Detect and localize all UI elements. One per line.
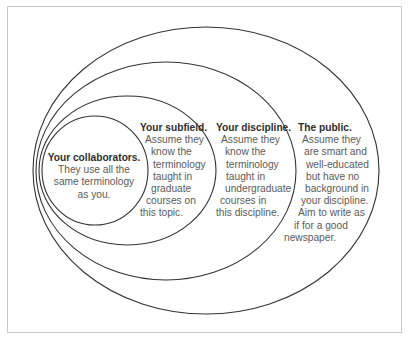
subfield-title: Your subfield. xyxy=(140,122,207,134)
subfield-line: courses on xyxy=(140,195,207,207)
collaborators-line: They use all the xyxy=(46,164,142,176)
discipline-line: Assume they xyxy=(216,134,291,146)
public-line: background in xyxy=(298,183,369,195)
public-title: The public. xyxy=(298,122,369,134)
collaborators-line: same terminology xyxy=(46,176,142,188)
public-line: newspaper. xyxy=(284,232,369,244)
subfield-line: know the xyxy=(140,146,207,158)
discipline-line: courses in xyxy=(216,195,291,207)
discipline-line: terminology xyxy=(216,159,291,171)
subfield-line: terminology xyxy=(140,159,207,171)
discipline-line: know the xyxy=(216,146,291,158)
discipline-line: taught in xyxy=(216,171,291,183)
collaborators-line: as you. xyxy=(46,189,142,201)
discipline-title: Your discipline. xyxy=(216,122,291,134)
public-line: well-educated xyxy=(298,159,369,171)
label-discipline: Your discipline. Assume they know the te… xyxy=(216,122,291,220)
public-line: are smart and xyxy=(298,146,369,158)
public-line: Aim to write as xyxy=(298,207,369,219)
public-line: but have no xyxy=(298,171,369,183)
discipline-line: this discipline. xyxy=(216,207,291,219)
discipline-line: undergraduate xyxy=(216,183,291,195)
label-subfield: Your subfield. Assume they know the term… xyxy=(140,122,207,220)
label-collaborators: Your collaborators. They use all the sam… xyxy=(46,152,142,201)
label-public: The public. Assume they are smart and we… xyxy=(298,122,369,244)
subfield-line: this topic. xyxy=(140,207,207,219)
subfield-line: Assume they xyxy=(140,134,207,146)
public-line: Assume they xyxy=(298,134,369,146)
subfield-line: taught in xyxy=(140,171,207,183)
collaborators-title: Your collaborators. xyxy=(46,152,142,164)
subfield-line: graduate xyxy=(140,183,207,195)
public-line: if for a good xyxy=(294,220,369,232)
public-line: your discipline. xyxy=(298,195,369,207)
